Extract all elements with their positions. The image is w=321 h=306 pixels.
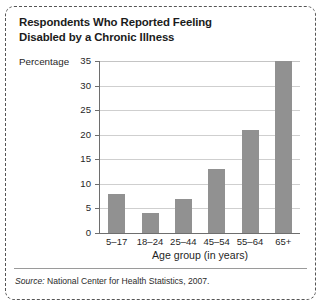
x-axis-line: [99, 233, 300, 234]
x-axis-label: Age group (in years): [100, 249, 300, 261]
y-tick-label: 10: [69, 178, 91, 189]
y-tick-mark: [95, 110, 99, 111]
y-tick-label: 30: [69, 80, 91, 91]
bar: [275, 61, 292, 233]
source-divider: [14, 268, 307, 269]
bar: [208, 169, 225, 233]
gridline: [100, 208, 300, 209]
bar: [142, 213, 159, 233]
y-tick-label: 0: [69, 227, 91, 238]
bar: [108, 194, 125, 233]
y-axis-line: [99, 61, 100, 234]
y-tick-mark: [95, 135, 99, 136]
y-tick-label: 35: [69, 55, 91, 66]
y-tick-mark: [95, 159, 99, 160]
source-prefix: Source:: [15, 276, 45, 286]
gridline: [100, 61, 300, 62]
chart-title-line-1: Respondents Who Reported Feeling: [19, 15, 284, 30]
chart-figure: Respondents Who Reported Feeling Disable…: [0, 0, 321, 306]
gridline: [100, 135, 300, 136]
y-tick-label: 5: [69, 202, 91, 213]
chart-title: Respondents Who Reported Feeling Disable…: [19, 15, 284, 45]
source-text: National Center for Health Statistics, 2…: [47, 276, 209, 286]
y-tick-mark: [95, 233, 99, 234]
gridline: [100, 159, 300, 160]
y-tick-mark: [95, 86, 99, 87]
bar: [242, 130, 259, 233]
gridline: [100, 184, 300, 185]
plot-area: [100, 61, 300, 233]
y-axis-label: Percentage: [19, 56, 69, 67]
chart-title-line-2: Disabled by a Chronic Illness: [19, 30, 284, 45]
y-tick-label: 25: [69, 104, 91, 115]
gridline: [100, 110, 300, 111]
x-tick-label: 65+: [260, 236, 306, 247]
y-tick-mark: [95, 61, 99, 62]
y-tick-mark: [95, 184, 99, 185]
bar: [175, 199, 192, 233]
source-note: Source: National Center for Health Stati…: [15, 276, 209, 286]
y-tick-mark: [95, 208, 99, 209]
gridline: [100, 86, 300, 87]
y-tick-label: 20: [69, 129, 91, 140]
y-tick-label: 15: [69, 153, 91, 164]
